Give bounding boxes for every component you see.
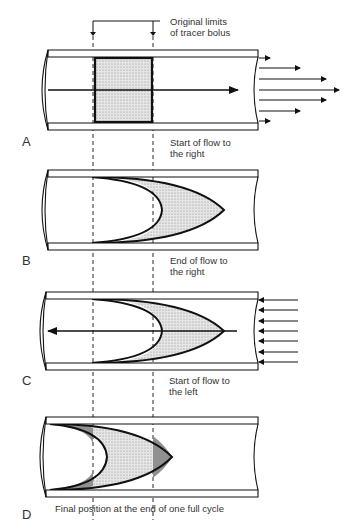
panel-c-letter: C [22,373,31,388]
bolus-bracket [93,21,160,34]
panel-c-caption: Start of flow to the left [169,375,230,397]
bolus-label: Original limits of tracer bolus [170,16,230,38]
panel-d-caption: Final position at the end of one full cy… [55,503,224,514]
panel-b-tube [42,170,258,250]
panel-c-tube [40,292,298,370]
panel-d-tube [40,417,258,497]
panel-a-caption: Start of flow to the right [170,137,231,159]
panel-a-caption-line1: Start of flow to [170,137,231,148]
panel-b-caption: End of flow to the right [170,255,228,277]
bolus-label-line2: of tracer bolus [170,27,230,38]
panel-d-letter: D [22,507,31,522]
bolus-label-line1: Original limits [170,16,230,27]
panel-b-caption-line1: End of flow to [170,255,228,266]
panel-c-caption-line1: Start of flow to [169,375,230,386]
panel-a-letter: A [22,134,31,149]
panel-b-letter: B [22,253,31,268]
panel-a-caption-line2: the right [170,148,231,159]
panel-a-tube [42,50,339,130]
panel-c-caption-line2: the left [169,386,230,397]
panel-b-caption-line2: the right [170,266,228,277]
